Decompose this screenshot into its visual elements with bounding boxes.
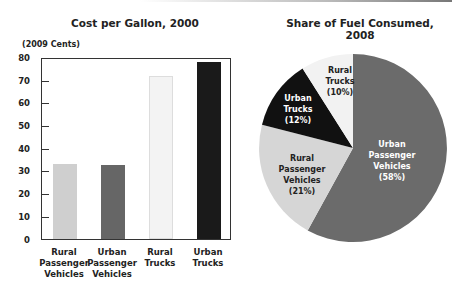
pie-label-urban-trucks: Urban Trucks (12%): [278, 93, 318, 126]
label-line: Rural: [320, 65, 360, 76]
label-line: Vehicles: [272, 175, 332, 186]
label-line: (58%): [362, 172, 422, 183]
y-tick: 50: [14, 121, 30, 131]
bar-plot-area: [41, 58, 231, 240]
pie-label-rural-passenger-vehicles: Rural Passenger Vehicles (21%): [272, 153, 332, 197]
bar-urban-trucks: [197, 62, 221, 239]
y-tick: 0: [14, 235, 30, 245]
label-line: Rural: [272, 153, 332, 164]
y-axis-unit-label: (2009 Cents): [22, 40, 80, 49]
y-tick: 30: [14, 166, 30, 176]
label-line: Passenger: [272, 164, 332, 175]
y-tick: 80: [14, 53, 30, 63]
label-line: Vehicles: [84, 269, 140, 280]
pie-label-urban-passenger-vehicles: Urban Passenger Vehicles (58%): [362, 139, 422, 183]
y-tick: 60: [14, 98, 30, 108]
y-tick: 10: [14, 212, 30, 222]
pie-label-rural-trucks: Rural Trucks (10%): [320, 65, 360, 98]
label-line: Urban: [362, 139, 422, 150]
label-line: (12%): [278, 115, 318, 126]
bar-chart-title: Cost per Gallon, 2000: [40, 17, 230, 29]
x-label-urban-trucks: Urban Trucks: [180, 247, 236, 269]
label-line: Passenger: [362, 150, 422, 161]
label-line: (10%): [320, 87, 360, 98]
bar-rural-passenger-vehicles: [53, 164, 77, 239]
top-border-line: [140, 0, 452, 2]
label-line: (21%): [272, 186, 332, 197]
label-line: Urban: [278, 93, 318, 104]
bar-rural-trucks: [149, 76, 173, 239]
bar-urban-passenger-vehicles: [101, 165, 125, 239]
y-tick: 20: [14, 189, 30, 199]
y-tick: 70: [14, 76, 30, 86]
pie-chart-title: Share of Fuel Consumed, 2008: [270, 17, 450, 41]
label-line: Trucks: [180, 258, 236, 269]
label-line: Trucks: [320, 76, 360, 87]
label-line: Vehicles: [362, 161, 422, 172]
label-line: Trucks: [278, 104, 318, 115]
label-line: Urban: [180, 247, 236, 258]
y-tick: 40: [14, 144, 30, 154]
